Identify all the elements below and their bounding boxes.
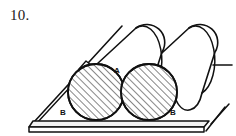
- board-front-edge: [29, 127, 204, 132]
- label-contact-a: A: [114, 66, 120, 75]
- board-break-line-inner: [211, 104, 229, 124]
- board-top-face: [29, 121, 209, 127]
- label-contact-b-right: B: [170, 108, 176, 117]
- cylinders-on-incline-diagram: A B B: [0, 0, 236, 136]
- label-contact-b-left: B: [60, 108, 66, 117]
- figure-root: 10.: [0, 0, 236, 136]
